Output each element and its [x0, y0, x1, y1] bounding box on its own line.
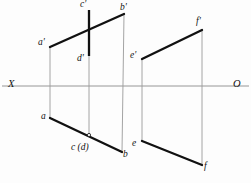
projector-line-b: [122, 14, 124, 152]
point-marker-cd: [87, 133, 90, 136]
point-label-a-prime: a': [38, 38, 45, 48]
point-label-f: f: [204, 162, 207, 172]
point-label-e-prime: e': [130, 51, 136, 61]
projection-diagram-canvas: X O a' b' c' d' a b c (d) e' f' e f: [0, 0, 251, 183]
axis-label-o: O: [233, 79, 241, 90]
point-label-b-prime: b': [120, 3, 127, 13]
point-label-d-prime: d': [77, 54, 84, 64]
segment-ef-front-view: [142, 30, 202, 59]
point-label-c-prime: c': [80, 0, 86, 10]
segment-ef-top-view: [142, 141, 202, 165]
point-label-f-prime: f': [196, 17, 201, 27]
point-label-cd: c (d): [71, 143, 89, 153]
point-label-e: e: [132, 139, 136, 149]
point-label-b: b: [123, 150, 128, 160]
axis-label-x: X: [8, 79, 14, 90]
point-label-a: a: [41, 112, 46, 122]
segment-ab-front-view: [50, 14, 124, 47]
